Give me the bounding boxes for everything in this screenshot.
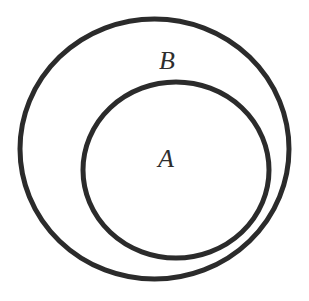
venn-diagram-svg: B A [0,0,309,301]
set-a-label: A [156,144,174,173]
set-b-label: B [159,46,175,75]
venn-diagram: B A [0,0,309,301]
